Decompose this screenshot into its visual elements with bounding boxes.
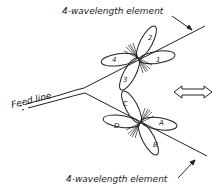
- lobe-label-3: 3: [123, 76, 127, 84]
- lobe-label-1: 1: [156, 56, 160, 64]
- top-element-label: 4-wavelength element: [62, 6, 164, 16]
- lobe-label-a: A: [158, 119, 164, 127]
- lobe-label-b: B: [153, 141, 158, 149]
- top-element-line: [84, 26, 205, 88]
- lobe-label-2: 2: [148, 34, 153, 42]
- bottom-element-label: 4-wavelength element: [66, 174, 168, 184]
- lobe-label-d: D: [114, 122, 120, 130]
- lobe-label-c: C: [123, 100, 128, 108]
- antenna-diagram: 4-wavelength element 4-wavelength elemen…: [0, 0, 221, 186]
- lobe-label-4: 4: [112, 56, 116, 64]
- double-headed-arrow-icon: [174, 86, 212, 98]
